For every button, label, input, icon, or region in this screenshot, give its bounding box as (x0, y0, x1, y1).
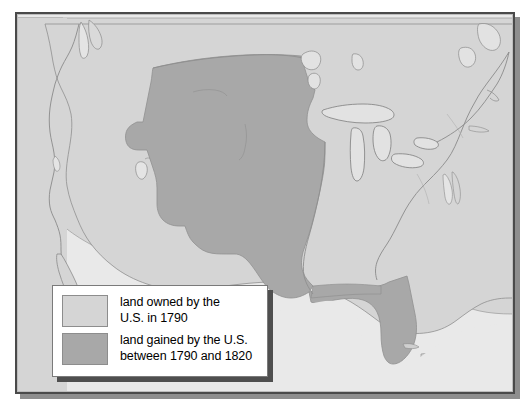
legend-label-land-gained: land gained by the U.S. between 1790 and… (120, 333, 252, 364)
legend-swatch-land-owned (62, 295, 108, 327)
map-frame: land owned by the U.S. in 1790 land gain… (15, 12, 515, 394)
legend-swatch-land-gained (62, 333, 108, 365)
legend-item-land-gained: land gained by the U.S. between 1790 and… (62, 333, 252, 365)
map-legend: land owned by the U.S. in 1790 land gain… (52, 285, 268, 377)
lake-michigan (350, 128, 364, 181)
legend-item-land-owned: land owned by the U.S. in 1790 (62, 295, 220, 327)
map-page: land owned by the U.S. in 1790 land gain… (0, 0, 528, 410)
legend-label-land-owned: land owned by the U.S. in 1790 (120, 295, 220, 326)
great-salt-lake (136, 162, 148, 179)
